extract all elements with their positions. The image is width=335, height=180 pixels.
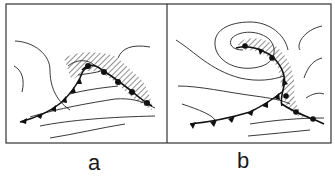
isobar [30,99,155,117]
weather-front-diagram [0,0,335,180]
panel-a [14,41,155,138]
precipitation-area-hatch [236,38,305,118]
isobar [70,86,118,94]
cold-front-triangles [190,93,280,129]
isobar [306,93,324,98]
isobar [182,104,215,120]
panel-label-a: a [88,150,100,176]
cold-front [190,92,282,124]
isobar [248,130,310,136]
isobar [299,26,322,50]
cold-front [20,68,88,122]
isobar [15,41,70,110]
cold-front-triangles [20,78,82,124]
panel-b [176,22,324,136]
isobar [118,46,150,58]
isobar [304,58,322,78]
isobar [40,116,155,126]
isobar [178,86,290,104]
isobar [14,66,23,92]
isobar [50,124,125,138]
panel-label-b: b [237,148,249,174]
